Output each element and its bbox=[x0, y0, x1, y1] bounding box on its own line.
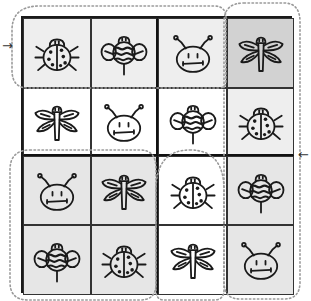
bug-grid bbox=[21, 16, 292, 293]
dragonfly-icon bbox=[166, 233, 220, 287]
bee-icon bbox=[97, 26, 151, 80]
grid-cell-r3c3 bbox=[158, 156, 227, 225]
left-arrow-icon: → bbox=[2, 39, 13, 52]
grid-cell-r3c2 bbox=[91, 156, 158, 225]
dragonfly-icon bbox=[30, 95, 84, 149]
right-arrow-icon: ← bbox=[298, 148, 309, 161]
grid-cell-r3c1 bbox=[23, 156, 91, 225]
antenna-face-icon bbox=[166, 26, 220, 80]
ladybug-icon bbox=[30, 26, 84, 80]
grid-cell-r4c2 bbox=[91, 225, 158, 295]
grid-cell-r2c1 bbox=[23, 88, 91, 156]
antenna-face-icon bbox=[234, 233, 288, 287]
grid-cell-r2c3 bbox=[158, 88, 227, 156]
grid-cell-r2c2 bbox=[91, 88, 158, 156]
ladybug-icon bbox=[234, 95, 288, 149]
grid-cell-r4c3 bbox=[158, 225, 227, 295]
dragonfly-icon bbox=[234, 26, 288, 80]
antenna-face-icon bbox=[97, 95, 151, 149]
grid-cell-r1c1 bbox=[23, 18, 91, 88]
grid-cell-r3c4 bbox=[227, 156, 294, 225]
bee-icon bbox=[234, 164, 288, 218]
grid-cell-r4c1 bbox=[23, 225, 91, 295]
antenna-face-icon bbox=[30, 164, 84, 218]
grid-cell-r1c2 bbox=[91, 18, 158, 88]
bee-icon bbox=[166, 95, 220, 149]
grid-cell-r1c3 bbox=[158, 18, 227, 88]
grid-cell-r4c4 bbox=[227, 225, 294, 295]
bee-icon bbox=[30, 233, 84, 287]
ladybug-icon bbox=[97, 233, 151, 287]
dragonfly-icon bbox=[97, 164, 151, 218]
grid-cell-r2c4 bbox=[227, 88, 294, 156]
grid-cell-r1c4 bbox=[227, 18, 294, 88]
ladybug-icon bbox=[166, 164, 220, 218]
